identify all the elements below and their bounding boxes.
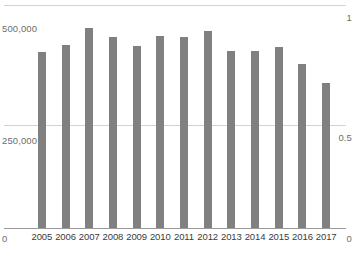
bar-2013[interactable] bbox=[227, 51, 235, 228]
bar-2006[interactable] bbox=[62, 45, 70, 228]
x-axis-label-2012: 2012 bbox=[195, 232, 221, 242]
x-axis-line bbox=[4, 228, 346, 229]
bar-2016[interactable] bbox=[298, 64, 306, 228]
x-axis-label-2009: 2009 bbox=[124, 232, 150, 242]
bar-2007[interactable] bbox=[85, 28, 93, 228]
bar-chart: 500,000 250,000 0 1 0.5 0 20052006200720… bbox=[0, 0, 355, 262]
bar-2017[interactable] bbox=[322, 83, 330, 228]
x-axis-label-2005: 2005 bbox=[29, 232, 55, 242]
bar-2010[interactable] bbox=[156, 36, 164, 228]
x-axis-labels: 2005200620072008200920102011201220132014… bbox=[30, 232, 338, 250]
bar-2008[interactable] bbox=[109, 37, 117, 228]
y-axis-right-label-bottom: 0 bbox=[347, 234, 352, 244]
y-axis-right-label-top: 1 bbox=[347, 13, 352, 23]
x-axis-label-2011: 2011 bbox=[171, 232, 197, 242]
y-axis-right-label-mid: 0.5 bbox=[338, 133, 352, 143]
bar-2014[interactable] bbox=[251, 51, 259, 228]
x-axis-label-2007: 2007 bbox=[76, 232, 102, 242]
x-axis-label-2006: 2006 bbox=[53, 232, 79, 242]
x-axis-label-2015: 2015 bbox=[266, 232, 292, 242]
plot-area bbox=[30, 5, 338, 228]
x-axis-label-2010: 2010 bbox=[147, 232, 173, 242]
bar-2015[interactable] bbox=[275, 47, 283, 228]
x-axis-label-2008: 2008 bbox=[100, 232, 126, 242]
x-axis-label-2013: 2013 bbox=[218, 232, 244, 242]
y-axis-left-label-bottom: 0 bbox=[2, 234, 7, 244]
bar-2012[interactable] bbox=[204, 31, 212, 228]
bar-2005[interactable] bbox=[38, 52, 46, 228]
bar-2009[interactable] bbox=[133, 46, 141, 228]
x-axis-label-2017: 2017 bbox=[313, 232, 339, 242]
bar-2011[interactable] bbox=[180, 37, 188, 228]
x-axis-label-2016: 2016 bbox=[289, 232, 315, 242]
x-axis-label-2014: 2014 bbox=[242, 232, 268, 242]
